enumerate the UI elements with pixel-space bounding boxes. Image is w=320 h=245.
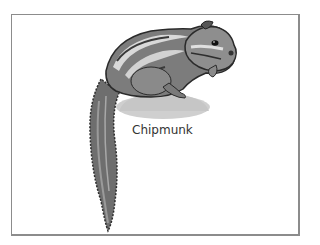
tail-shape [90,79,119,231]
image-caption: Chipmunk [132,123,193,137]
eye-shape [212,40,219,46]
